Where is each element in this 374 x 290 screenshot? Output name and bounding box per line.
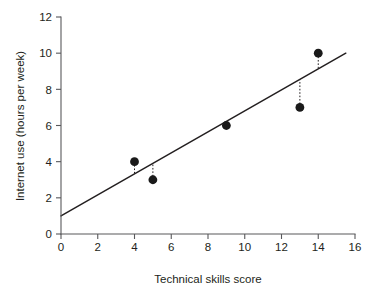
- x-tick-label-8: 8: [205, 241, 211, 253]
- x-tick-label-6: 6: [168, 241, 174, 253]
- y-tick-label-6: 6: [46, 120, 52, 132]
- scatter-plot-figure: 0246810121416 024681012 Technical skills…: [0, 0, 374, 290]
- data-point: [130, 157, 139, 166]
- residual-lines-group: [135, 53, 319, 180]
- y-tick-label-10: 10: [39, 47, 52, 59]
- y-tick-label-4: 4: [46, 156, 53, 168]
- data-points-group: [130, 49, 323, 184]
- y-axis-title: Internet use (hours per week): [14, 51, 26, 201]
- x-tick-label-16: 16: [349, 241, 362, 253]
- x-axis-title: Technical skills score: [154, 273, 261, 285]
- chart-canvas: 0246810121416 024681012 Technical skills…: [0, 0, 374, 290]
- y-tick-label-12: 12: [39, 11, 52, 23]
- data-point: [295, 103, 304, 112]
- x-tick-label-10: 10: [238, 241, 251, 253]
- x-tick-label-2: 2: [95, 241, 101, 253]
- y-axis-ticks-group: 024681012: [39, 11, 61, 240]
- y-tick-label-2: 2: [46, 192, 52, 204]
- data-point: [222, 121, 231, 130]
- y-tick-label-0: 0: [46, 228, 52, 240]
- x-tick-label-14: 14: [312, 241, 325, 253]
- y-tick-label-8: 8: [46, 84, 52, 96]
- x-tick-label-12: 12: [275, 241, 288, 253]
- x-axis-ticks-group: 0246810121416: [58, 234, 362, 253]
- x-tick-label-0: 0: [58, 241, 64, 253]
- regression-line: [61, 53, 346, 216]
- data-point: [148, 175, 157, 184]
- x-tick-label-4: 4: [131, 241, 138, 253]
- data-point: [314, 49, 323, 58]
